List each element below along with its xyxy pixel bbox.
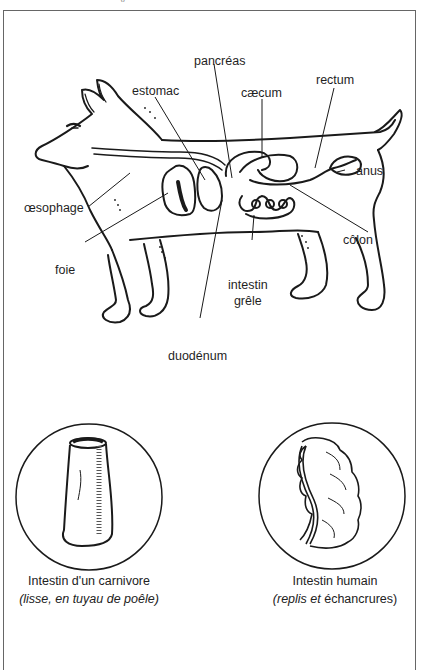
label-duodenum: duodénum [168,349,227,363]
human-title: Intestin humain [265,572,405,590]
label-rectum: rectum [316,73,354,87]
label-pancreas: pancréas [194,54,245,68]
label-colon: côlon [343,233,373,247]
carnivore-title: Intestin d'un carnivore [14,572,164,590]
label-anus: anus [356,164,383,178]
label-estomac: estomac [132,84,179,98]
human-subtitle: (replis et échancrures) [265,590,405,608]
label-intestin-line2: grêle [228,293,268,309]
label-foie: foie [55,263,75,277]
human-caption: Intestin humain (replis et échancrures) [265,572,405,608]
carnivore-circle [16,424,162,570]
label-intestin-line1: intestin [228,277,268,293]
label-oesophage: œsophage [24,201,84,215]
label-caecum: cæcum [241,86,282,100]
label-intestin-grele: intestin grêle [228,277,268,309]
carnivore-caption: Intestin d'un carnivore (lisse, en tuyau… [14,572,164,608]
carnivore-subtitle: (lisse, en tuyau de poêle) [14,590,164,608]
